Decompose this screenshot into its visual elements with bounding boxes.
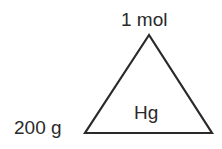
center-label: Hg [134, 103, 158, 122]
top-label: 1 mol [121, 10, 167, 29]
left-label: 200 g [14, 118, 62, 137]
